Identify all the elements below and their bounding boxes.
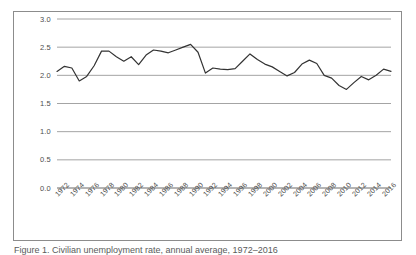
y-tick-label-2.0: 2.0	[29, 71, 51, 80]
y-tick-label-0.0: 0.0	[29, 184, 51, 193]
figure-container: 3.02.52.01.51.00.50.0 197219741976197819…	[0, 0, 416, 255]
y-tick-label-2.5: 2.5	[29, 43, 51, 52]
y-tick-label-1.0: 1.0	[29, 127, 51, 136]
y-tick-label-0.5: 0.5	[29, 155, 51, 164]
y-tick-label-3.0: 3.0	[29, 15, 51, 24]
y-tick-label-1.5: 1.5	[29, 99, 51, 108]
figure-caption: Figure 1. Civilian unemployment rate, an…	[14, 245, 414, 255]
plot-area: 3.02.52.01.51.00.50.0 197219741976197819…	[14, 12, 401, 240]
line-chart-svg	[14, 12, 401, 240]
data-line-series-1	[57, 44, 391, 89]
gridlines-group	[57, 19, 391, 188]
chart-frame: 3.02.52.01.51.00.50.0 197219741976197819…	[13, 11, 402, 241]
